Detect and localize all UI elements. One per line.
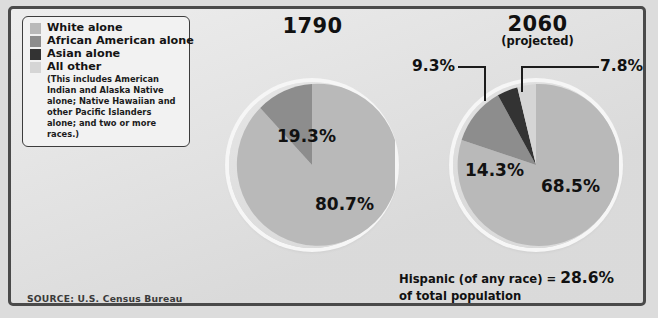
chart-year-2060: 2060 xyxy=(470,14,605,35)
pie-chart-2060: 14.3% 68.5% xyxy=(453,82,619,248)
pie-label-2060-asian-alone: 9.3% xyxy=(412,57,455,75)
pie-label-1790-white-alone: 80.7% xyxy=(315,194,374,214)
pie-label-2060-african-american-alone: 14.3% xyxy=(465,160,524,180)
legend-item-white-alone: White alone xyxy=(30,22,182,34)
legend-label-asian-alone: Asian alone xyxy=(47,48,120,60)
legend-label-white-alone: White alone xyxy=(47,22,123,34)
pie-label-1790-african-american-alone: 19.3% xyxy=(277,126,336,146)
leader-line-all-other-vertical xyxy=(521,66,523,92)
leader-line-asian-vertical xyxy=(484,66,486,101)
pie-svg-1790 xyxy=(229,82,395,248)
leader-line-all-other-horizontal xyxy=(521,66,599,68)
legend-swatch-white-alone xyxy=(30,23,41,34)
chart-year-1790: 1790 xyxy=(245,16,380,37)
hispanic-note: Hispanic (of any race) = 28.6% of total … xyxy=(399,268,634,304)
legend-label-all-other: All other xyxy=(47,61,101,73)
legend-note: (This includes American Indian and Alask… xyxy=(47,74,182,140)
legend-swatch-african-american-alone xyxy=(30,36,41,47)
leader-line-asian-horizontal xyxy=(458,66,486,68)
legend-item-african-american-alone: African American alone xyxy=(30,35,182,47)
legend-swatch-all-other xyxy=(30,62,41,73)
legend: White alone African American alone Asian… xyxy=(22,16,190,147)
infographic-root: U.S. population by race White alone Afri… xyxy=(0,0,658,318)
legend-swatch-asian-alone xyxy=(30,49,41,60)
hispanic-note-value: 28.6% xyxy=(560,269,614,287)
chart-subtitle-2060: (projected) xyxy=(470,35,605,48)
pie-label-2060-white-alone: 68.5% xyxy=(541,176,600,196)
legend-item-all-other: All other xyxy=(30,61,182,73)
chart-heading-1790: 1790 xyxy=(245,16,380,37)
hispanic-note-line2: of total population xyxy=(399,289,521,303)
legend-item-asian-alone: Asian alone xyxy=(30,48,182,60)
pie-chart-1790: 19.3% 80.7% xyxy=(229,82,395,248)
hispanic-note-prefix: Hispanic (of any race) = xyxy=(399,272,560,286)
source-note: SOURCE: U.S. Census Bureau xyxy=(27,293,183,304)
chart-heading-2060: 2060 (projected) xyxy=(470,14,605,48)
pie-label-2060-all-other: 7.8% xyxy=(600,57,643,75)
legend-label-african-american-alone: African American alone xyxy=(47,35,194,47)
